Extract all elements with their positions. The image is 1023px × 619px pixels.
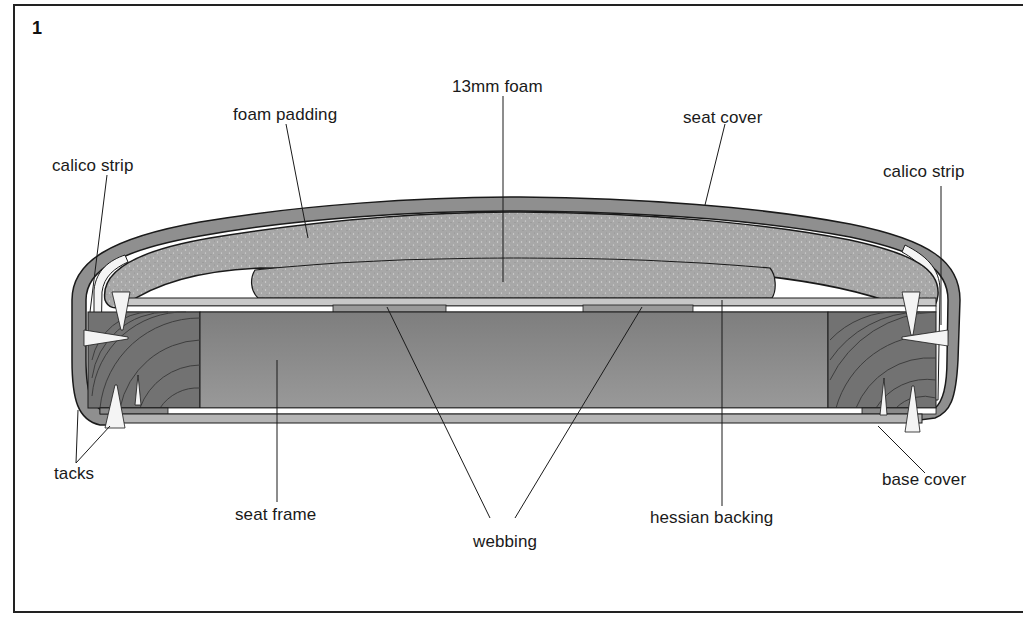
webbing-strip-2 <box>583 305 693 312</box>
label-webbing: webbing <box>473 532 537 552</box>
hessian-backing-shape <box>118 298 936 306</box>
label-hessian-backing: hessian backing <box>650 508 773 528</box>
label-calico-strip-right: calico strip <box>883 162 965 182</box>
label-13mm-foam: 13mm foam <box>452 77 543 97</box>
seat-frame-shape <box>88 312 936 408</box>
label-seat-frame: seat frame <box>235 505 316 525</box>
label-foam-padding: foam padding <box>233 105 337 125</box>
label-calico-strip-left: calico strip <box>52 156 134 176</box>
base-cover-shape <box>110 414 922 423</box>
label-seat-cover: seat cover <box>683 108 762 128</box>
label-tacks: tacks <box>54 464 94 484</box>
foam-13mm-shape <box>252 258 776 298</box>
webbing-strip-1 <box>333 305 446 312</box>
label-base-cover: base cover <box>882 470 966 490</box>
